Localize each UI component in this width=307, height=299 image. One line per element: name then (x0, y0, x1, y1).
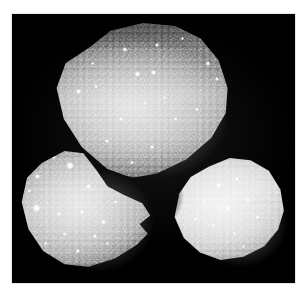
specular-highlight (215, 77, 219, 81)
specular-highlight (106, 242, 109, 245)
specular-highlight (80, 210, 85, 215)
specular-highlight (242, 245, 245, 248)
specular-highlight (181, 37, 185, 41)
specular-highlight (119, 117, 123, 121)
specular-highlight (174, 117, 177, 120)
specular-highlight (93, 234, 97, 238)
specular-highlight (123, 47, 128, 52)
specular-highlight (256, 215, 259, 218)
specular-highlight (150, 145, 153, 148)
specular-highlight (28, 189, 31, 192)
specular-highlight (216, 183, 221, 188)
specular-highlight (91, 62, 94, 65)
specular-highlight (76, 89, 81, 94)
specular-highlight (52, 155, 56, 159)
specular-highlight (101, 220, 105, 224)
specular-highlight (203, 200, 207, 204)
specular-highlight (143, 102, 146, 105)
specular-highlight (233, 232, 236, 235)
specular-highlight (76, 249, 79, 252)
specular-highlight (57, 212, 61, 216)
specular-highlight (212, 224, 215, 227)
specular-highlight (86, 184, 91, 189)
specular-highlight (66, 162, 74, 170)
specular-highlight (155, 43, 159, 47)
specular-highlight (206, 61, 211, 66)
figure-page (0, 0, 307, 299)
micrograph-plate (12, 14, 295, 283)
specular-highlight (114, 200, 118, 204)
specular-highlight (194, 217, 197, 220)
specimen-right-grain-texture (170, 156, 285, 261)
specular-highlight (151, 70, 156, 75)
specular-highlight (33, 204, 41, 212)
specimen-right (170, 156, 285, 261)
specular-highlight (135, 71, 141, 77)
specular-highlight (163, 96, 167, 100)
specimen-right-film-noise (170, 156, 285, 261)
specular-highlight (44, 242, 47, 245)
specular-highlight (63, 232, 66, 235)
specular-highlight (105, 139, 109, 143)
specular-highlight (235, 177, 239, 181)
specular-highlight (225, 206, 229, 210)
specular-highlight (35, 174, 40, 179)
specular-highlight (195, 108, 198, 111)
specular-highlight (246, 198, 249, 201)
specular-highlight (130, 161, 133, 164)
specular-highlight (94, 85, 97, 88)
